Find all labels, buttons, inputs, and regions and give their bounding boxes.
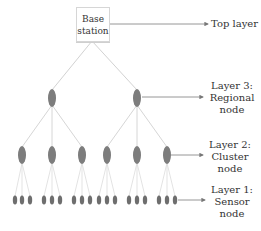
cluster-node xyxy=(163,146,171,164)
layer-arrows xyxy=(109,24,208,200)
cluster-node xyxy=(78,146,86,164)
base-station-node: Base station xyxy=(76,7,110,42)
regional-node xyxy=(48,89,56,107)
top-layer-label: Top layer xyxy=(211,18,258,30)
layer1-label: Layer 1: Sensor node xyxy=(210,184,254,220)
network-hierarchy-diagram: Base station Top layer Layer 3: Regional… xyxy=(0,0,261,231)
layer3-label: Layer 3: Regional node xyxy=(208,80,256,116)
cluster-node xyxy=(18,146,26,164)
edges-cluster-to-sensor xyxy=(15,163,175,196)
regional-nodes xyxy=(48,89,141,107)
cluster-node xyxy=(133,146,141,164)
edges-base-to-regional xyxy=(52,41,137,90)
cluster-nodes xyxy=(18,146,171,164)
base-station-label-line2: station xyxy=(77,25,108,37)
cluster-node xyxy=(48,146,56,164)
base-station-label-line1: Base xyxy=(82,13,104,25)
cluster-node xyxy=(103,146,111,164)
regional-node xyxy=(133,89,141,107)
edges-regional-to-cluster xyxy=(22,105,167,147)
sensor-nodes xyxy=(13,196,177,205)
layer2-label: Layer 2: Cluster node xyxy=(208,139,252,175)
